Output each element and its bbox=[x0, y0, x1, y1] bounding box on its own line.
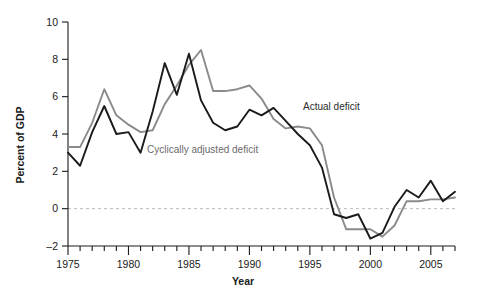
y-axis: –20246810 bbox=[46, 16, 68, 252]
y-axis-tick-label: 6 bbox=[52, 90, 58, 102]
annotation-cyclically-adjusted-deficit: Cyclically adjusted deficit bbox=[147, 144, 258, 155]
x-axis-tick-label: 1995 bbox=[298, 258, 322, 270]
y-axis-tick-label: 4 bbox=[52, 128, 58, 140]
x-axis-title: Year bbox=[232, 275, 254, 287]
series-lines bbox=[68, 50, 455, 239]
series-line-actual-deficit bbox=[68, 54, 455, 239]
y-axis-tick-label: 2 bbox=[52, 165, 58, 177]
x-axis-tick-label: 2005 bbox=[419, 258, 443, 270]
x-axis-tick-label: 1980 bbox=[117, 258, 141, 270]
y-axis-tick-label: 10 bbox=[46, 16, 58, 28]
annotation-actual-deficit: Actual deficit bbox=[303, 101, 360, 112]
y-axis-tick-label: 0 bbox=[52, 202, 58, 214]
chart-canvas: –20246810 1975198019851990199520002005 P… bbox=[0, 0, 487, 291]
x-axis: 1975198019851990199520002005 bbox=[56, 246, 455, 270]
deficit-line-chart: –20246810 1975198019851990199520002005 P… bbox=[0, 0, 487, 291]
y-axis-tick-label: 8 bbox=[52, 53, 58, 65]
x-axis-tick-label: 1985 bbox=[177, 258, 201, 270]
y-axis-tick-label: –2 bbox=[46, 240, 58, 252]
y-axis-title: Percent of GDP bbox=[14, 106, 26, 183]
x-axis-tick-label: 1990 bbox=[238, 258, 262, 270]
x-axis-tick-label: 2000 bbox=[359, 258, 383, 270]
x-axis-tick-label: 1975 bbox=[56, 258, 80, 270]
